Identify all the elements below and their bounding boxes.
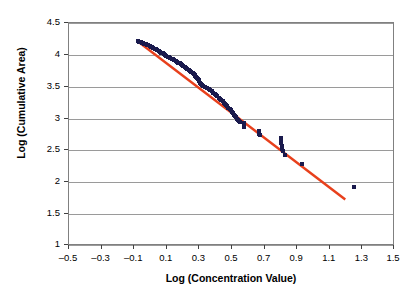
y-axis-title: Log (Cumulative Area) — [15, 18, 27, 188]
x-tick-label: –0.3 — [91, 253, 110, 263]
x-tick-label: 0.1 — [159, 253, 172, 263]
clipped-caption — [0, 292, 414, 300]
x-tick-label: 0.9 — [290, 253, 303, 263]
data-point — [300, 162, 304, 166]
y-tick-label: 1.5 — [16, 208, 60, 218]
plot-area — [68, 22, 394, 245]
x-tick-label: 0.3 — [192, 253, 205, 263]
data-point — [258, 133, 262, 137]
x-tick-label: 1.1 — [322, 253, 335, 263]
x-tick-label: 0.5 — [224, 253, 237, 263]
data-marks-layer — [69, 23, 393, 244]
x-axis-title: Log (Concentration Value) — [68, 272, 394, 284]
data-point — [283, 153, 287, 157]
data-point — [242, 125, 246, 129]
trendline — [69, 23, 393, 244]
x-tick-label: –0.1 — [124, 253, 143, 263]
y-tick-label: 1 — [16, 239, 60, 249]
x-tick-label: 0.7 — [257, 253, 270, 263]
gridline — [69, 245, 393, 246]
chart-figure: 11.522.533.544.5–0.5–0.3–0.10.10.30.50.7… — [0, 0, 414, 300]
x-tick-label: 1.3 — [355, 253, 368, 263]
x-tick-label: –0.5 — [59, 253, 78, 263]
x-tick-mark — [393, 245, 394, 249]
clipped-caption-text — [0, 292, 414, 297]
data-point — [352, 185, 356, 189]
x-tick-label: 1.5 — [386, 253, 399, 263]
